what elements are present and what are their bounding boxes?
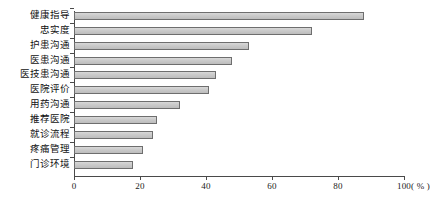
category-label: 健康指导 [0, 10, 70, 20]
x-axis-tick-label: 40 [201, 181, 210, 191]
category-label: 护患沟通 [0, 40, 70, 50]
category-label: 就诊流程 [0, 129, 70, 139]
y-axis-tick [70, 142, 74, 143]
y-axis-tick [70, 8, 74, 9]
x-axis-tick [404, 176, 405, 180]
bar [74, 27, 312, 35]
x-axis-tick [74, 176, 75, 180]
bar [74, 116, 157, 124]
bar [74, 42, 249, 50]
x-axis-tick [272, 176, 273, 180]
x-axis-tick-label: 0 [72, 181, 77, 191]
category-label: 推荐医院 [0, 114, 70, 124]
x-axis-tick-label: 80 [333, 181, 342, 191]
bar [74, 57, 232, 65]
x-axis-tick-label: 20 [135, 181, 144, 191]
category-label: 医患沟通 [0, 55, 70, 65]
bar [74, 161, 133, 169]
y-axis-tick [70, 127, 74, 128]
y-axis-tick [70, 82, 74, 83]
category-label: 门诊环境 [0, 159, 70, 169]
category-label: 用药沟通 [0, 99, 70, 109]
y-axis-tick [70, 97, 74, 98]
bar [74, 12, 364, 20]
bar [74, 146, 143, 154]
category-label: 医技患沟通 [0, 69, 70, 79]
y-axis-tick [70, 23, 74, 24]
y-axis-tick [70, 157, 74, 158]
plot-area: 健康指导忠实度护患沟通医患沟通医技患沟通医院评价用药沟通推荐医院就诊流程疼痛管理… [0, 0, 437, 216]
x-axis-unit-label: ( % ) [411, 181, 430, 191]
x-axis-line [74, 176, 405, 177]
y-axis-tick [70, 112, 74, 113]
horizontal-bar-chart: 健康指导忠实度护患沟通医患沟通医技患沟通医院评价用药沟通推荐医院就诊流程疼痛管理… [0, 0, 437, 216]
y-axis-tick [70, 38, 74, 39]
x-axis-tick [206, 176, 207, 180]
x-axis-tick-label: 100 [397, 181, 411, 191]
category-label: 疼痛管理 [0, 144, 70, 154]
bar [74, 101, 180, 109]
x-axis-tick-label: 60 [267, 181, 276, 191]
x-axis-tick [338, 176, 339, 180]
category-label: 忠实度 [0, 25, 70, 35]
bar [74, 71, 216, 79]
bar [74, 86, 209, 94]
x-axis-tick [140, 176, 141, 180]
bar [74, 131, 153, 139]
category-label: 医院评价 [0, 84, 70, 94]
y-axis-tick [70, 53, 74, 54]
y-axis-tick [70, 67, 74, 68]
